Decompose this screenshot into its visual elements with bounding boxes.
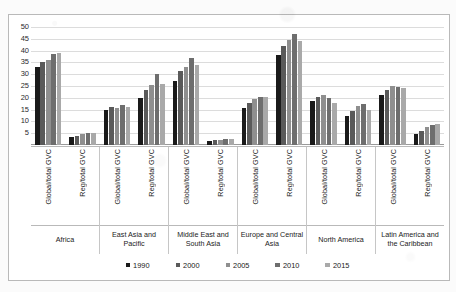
bar-group — [238, 27, 272, 145]
bar-2015 — [57, 53, 62, 145]
measure-label: Reg/total GVC — [78, 149, 87, 197]
bar-1990 — [345, 116, 350, 146]
bar-1990 — [379, 95, 384, 145]
bar-2000 — [385, 90, 390, 145]
legend-label: 2010 — [283, 261, 299, 270]
legend-item[interactable]: 2005 — [226, 261, 250, 270]
bar-2015 — [298, 41, 303, 145]
bar-2015 — [367, 110, 372, 145]
bar-2000 — [40, 62, 45, 145]
legend-item[interactable]: 2010 — [275, 261, 299, 270]
bar-group — [65, 27, 99, 145]
bar-groups — [31, 27, 444, 145]
legend-swatch-icon — [176, 263, 181, 268]
measure-label: Global/total GVC — [389, 149, 398, 205]
legend-item[interactable]: 2000 — [176, 261, 200, 270]
measure-label: Reg/total GVC — [423, 149, 432, 197]
bar-2010 — [155, 74, 160, 145]
chart-legend: 19902000200520102015 — [31, 258, 444, 272]
bar-2010 — [327, 98, 332, 145]
bar-2000 — [350, 111, 355, 145]
bar-2000 — [419, 131, 424, 145]
bar-2005 — [252, 99, 257, 145]
bar-2000 — [75, 136, 80, 145]
bar-1990 — [242, 108, 247, 145]
measure-label-cell: Global/total GVC — [237, 147, 272, 225]
bar-2015 — [126, 107, 131, 145]
bar-2015 — [435, 124, 440, 145]
measure-label: Reg/total GVC — [216, 149, 225, 197]
legend-item[interactable]: 2015 — [325, 261, 349, 270]
bar-2015 — [91, 133, 96, 145]
bar-2010 — [396, 87, 401, 145]
measure-label: Reg/total GVC — [285, 149, 294, 197]
y-tick-label: 25 — [21, 82, 29, 90]
measure-label: Global/total GVC — [113, 149, 122, 205]
bar-2010 — [223, 139, 228, 145]
bar-2005 — [80, 134, 85, 145]
region-label-band: AfricaEast Asia and PacificMiddle East a… — [31, 224, 444, 254]
bar-group — [31, 27, 65, 145]
measure-label-cell: Reg/total GVC — [65, 147, 99, 225]
measure-label-cell: Global/total GVC — [375, 147, 410, 225]
bar-group — [410, 27, 444, 145]
chart-screenshot: 5045403530252015105 Global/total GVCReg/… — [0, 0, 456, 292]
legend-swatch-icon — [126, 263, 131, 268]
measure-label: Global/total GVC — [251, 149, 260, 205]
bar-2015 — [263, 97, 268, 145]
bar-2005 — [356, 106, 361, 145]
bar-2000 — [178, 71, 183, 145]
bar-2010 — [292, 34, 297, 145]
bar-2015 — [332, 103, 337, 145]
measure-label: Reg/total GVC — [354, 149, 363, 197]
region-label: Middle East and South Asia — [168, 224, 237, 254]
bar-2010 — [189, 58, 194, 145]
bar-2005 — [218, 140, 223, 145]
measure-label: Reg/total GVC — [147, 149, 156, 197]
y-tick-label: 50 — [21, 23, 29, 31]
bar-2000 — [281, 46, 286, 145]
bar-2015 — [160, 84, 165, 145]
bar-2005 — [115, 108, 120, 145]
bar-2010 — [51, 54, 56, 145]
y-tick-label: 10 — [21, 117, 29, 125]
measure-label-cell: Reg/total GVC — [272, 147, 306, 225]
bar-2010 — [258, 97, 263, 145]
y-tick-label: 15 — [21, 106, 29, 114]
bar-2000 — [316, 97, 321, 145]
y-tick-label: 20 — [21, 94, 29, 102]
legend-item[interactable]: 1990 — [126, 261, 150, 270]
bar-2005 — [321, 95, 326, 145]
bar-2010 — [86, 133, 91, 145]
bar-group — [100, 27, 134, 145]
bar-2005 — [287, 40, 292, 145]
bar-1990 — [414, 134, 419, 145]
bar-2010 — [361, 104, 366, 145]
measure-label-band: Global/total GVCReg/total GVCGlobal/tota… — [31, 146, 444, 226]
region-label: North America — [306, 224, 375, 254]
bar-group — [375, 27, 409, 145]
y-tick-label: 5 — [25, 129, 29, 137]
legend-label: 2000 — [183, 261, 199, 270]
y-tick-label: 30 — [21, 70, 29, 78]
bar-2005 — [184, 67, 189, 145]
bar-2015 — [401, 88, 406, 145]
legend-swatch-icon — [226, 263, 231, 268]
bar-group — [341, 27, 375, 145]
bar-1990 — [104, 110, 109, 145]
bar-1990 — [310, 101, 315, 145]
measure-label-cell: Global/total GVC — [99, 147, 134, 225]
y-tick-label: 45 — [21, 35, 29, 43]
bar-1990 — [207, 141, 212, 145]
bar-1990 — [173, 81, 178, 145]
legend-swatch-icon — [325, 263, 330, 268]
bars-plot — [31, 27, 444, 145]
bar-2005 — [46, 60, 51, 145]
region-label: Latin America and the Caribbean — [375, 224, 444, 254]
legend-label: 1990 — [133, 261, 149, 270]
legend-swatch-icon — [275, 263, 280, 268]
bar-2015 — [195, 65, 200, 145]
bar-2015 — [229, 139, 234, 145]
bar-2005 — [149, 85, 154, 145]
y-tick-label: 35 — [21, 58, 29, 66]
